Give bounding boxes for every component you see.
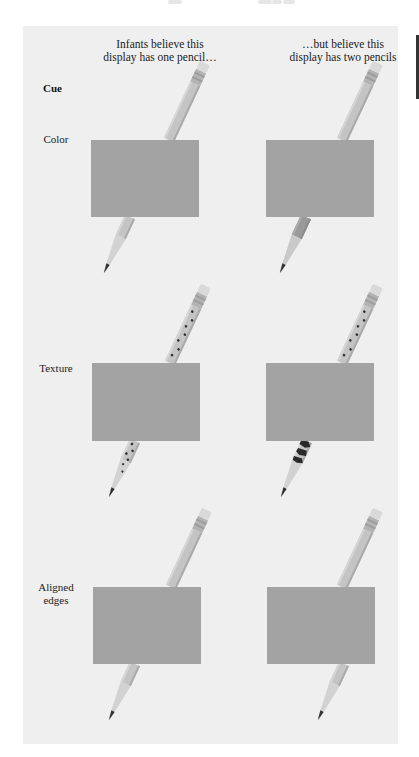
pencil-lower-half-dotted [104,439,140,500]
occluder-screen [92,363,200,441]
texture-row-right-display [266,284,383,500]
pencil-lower-half [99,215,135,276]
pencil-upper-half-dotted [337,284,383,366]
pencil-scene [0,0,419,757]
pencil-lower-half-misaligned [313,662,349,723]
occluder-screen [91,140,199,217]
pencil-upper-half [166,508,212,590]
aligned-row-left-display [93,508,212,723]
pencil-lower-half [104,662,140,723]
pencil-upper-half [337,508,383,590]
occluder-screen [266,140,374,217]
pencil-lower-half-dark [275,215,311,276]
occluder-screen [93,587,201,664]
pencil-upper-half [337,61,383,143]
color-row-right-display [266,61,383,276]
aligned-row-right-display [267,508,383,723]
pencil-upper-half [164,61,210,143]
texture-row-left-display [92,284,211,500]
occluder-screen [267,587,375,664]
occluder-screen [266,363,374,441]
pencil-upper-half-dotted [165,284,211,366]
pencil-lower-half-blotched [276,439,312,500]
color-row-left-display [91,61,210,276]
